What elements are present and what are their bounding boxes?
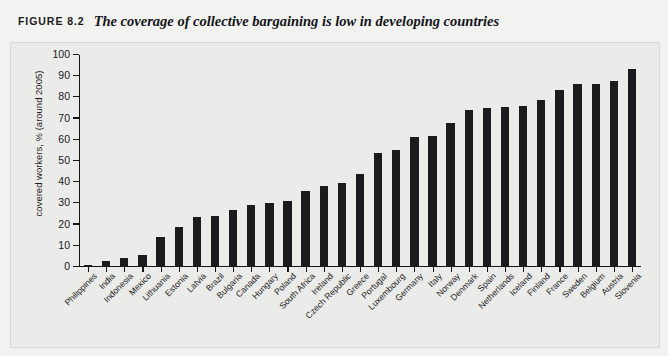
y-axis-line: [79, 55, 80, 267]
bar: [338, 183, 346, 266]
bar: [247, 205, 255, 266]
y-tick-label: 0: [64, 260, 70, 272]
y-tick-mark: [73, 202, 79, 203]
bar: [446, 123, 454, 266]
bar: [175, 227, 183, 265]
y-tick-label: 20: [58, 218, 70, 230]
bar: [610, 81, 618, 265]
bar: [537, 100, 545, 266]
bar: [356, 174, 364, 266]
bar: [320, 186, 328, 266]
plot-inner: 0102030405060708090100: [79, 55, 641, 267]
bar: [138, 255, 146, 266]
bar: [229, 210, 237, 266]
y-tick-label: 100: [52, 48, 70, 60]
bar: [193, 217, 201, 266]
chart-container: covered workers, % (around 2005) 0102030…: [10, 42, 660, 348]
bar: [120, 258, 128, 266]
figure-title: The coverage of collective bargaining is…: [94, 13, 500, 30]
y-tick-label: 70: [58, 112, 70, 124]
figure-page: FIGURE 8.2 The coverage of collective ba…: [0, 0, 668, 356]
x-axis-labels: PhilippinesIndiaIndonesiaMexicoLithuania…: [79, 271, 641, 349]
x-axis-label: Latvia: [185, 271, 208, 294]
y-tick-mark: [73, 75, 79, 76]
y-tick-label: 40: [58, 175, 70, 187]
y-tick-label: 80: [58, 90, 70, 102]
bar: [465, 110, 473, 265]
bar: [628, 69, 636, 266]
plot-area: 0102030405060708090100: [79, 55, 641, 267]
bar: [102, 261, 110, 265]
bar: [555, 90, 563, 266]
bar: [592, 84, 600, 266]
y-tick-mark: [73, 160, 79, 161]
figure-number-label: FIGURE 8.2: [18, 15, 85, 27]
y-tick-mark: [73, 96, 79, 97]
bar: [392, 150, 400, 266]
y-tick-mark: [73, 54, 79, 55]
y-axis-title: covered workers, % (around 2005): [33, 49, 44, 239]
bar: [483, 108, 491, 266]
y-tick-mark: [73, 117, 79, 118]
bar: [301, 191, 309, 266]
bar: [573, 84, 581, 265]
y-tick-label: 60: [58, 133, 70, 145]
bar: [265, 203, 273, 266]
bar: [84, 265, 92, 266]
x-axis-label: Philippines: [63, 271, 99, 307]
bar: [156, 237, 164, 266]
y-tick-mark: [73, 266, 79, 267]
bar: [374, 153, 382, 265]
y-tick-label: 50: [58, 154, 70, 166]
bar: [410, 137, 418, 266]
bar: [211, 216, 219, 265]
y-tick-label: 30: [58, 196, 70, 208]
y-tick-label: 90: [58, 69, 70, 81]
bar: [501, 107, 509, 265]
y-tick-mark: [73, 139, 79, 140]
bar: [283, 201, 291, 266]
bar: [428, 136, 436, 265]
figure-caption: FIGURE 8.2 The coverage of collective ba…: [0, 0, 668, 42]
y-tick-mark: [73, 223, 79, 224]
bar: [519, 106, 527, 265]
y-tick-mark: [73, 245, 79, 246]
y-tick-label: 10: [58, 239, 70, 251]
y-tick-mark: [73, 181, 79, 182]
